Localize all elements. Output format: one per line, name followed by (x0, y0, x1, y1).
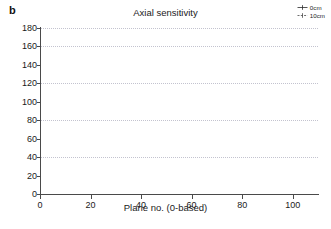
y-tick-140 (37, 65, 41, 66)
gridline-y-80 (40, 120, 318, 121)
x-tick-label-100: 100 (285, 200, 300, 210)
gridline-y-160 (40, 46, 318, 47)
x-axis: 020406080100 (39, 194, 319, 195)
x-tick-label-20: 20 (86, 200, 96, 210)
chart-title: Axial sensitivity (0, 7, 331, 18)
y-tick-120 (37, 83, 41, 84)
plot-area (40, 28, 318, 194)
x-tick-80 (242, 195, 243, 199)
x-tick-40 (141, 195, 142, 199)
legend-item-0cm[interactable]: 0cm (297, 4, 325, 11)
y-tick-label-0: 0 (32, 189, 37, 199)
y-tick-label-40: 40 (27, 152, 37, 162)
x-tick-60 (192, 195, 193, 199)
y-tick-180 (37, 28, 41, 29)
y-axis: 020406080100120140160180 (40, 27, 41, 195)
gridline-y-180 (40, 28, 318, 29)
legend-item-10cm[interactable]: 10cm (297, 12, 325, 19)
y-tick-60 (37, 139, 41, 140)
x-tick-label-0: 0 (37, 200, 42, 210)
x-tick-label-60: 60 (187, 200, 197, 210)
x-tick-label-80: 80 (237, 200, 247, 210)
y-tick-80 (37, 120, 41, 121)
y-tick-160 (37, 46, 41, 47)
plot-background (40, 28, 318, 194)
y-tick-20 (37, 176, 41, 177)
y-tick-label-100: 100 (22, 97, 37, 107)
x-tick-100 (293, 195, 294, 199)
y-tick-label-80: 80 (27, 115, 37, 125)
y-tick-label-60: 60 (27, 134, 37, 144)
figure-panel: b Axial sensitivity Countrate/Activity [… (0, 0, 331, 229)
y-tick-100 (37, 102, 41, 103)
y-tick-label-160: 160 (22, 41, 37, 51)
y-tick-40 (37, 157, 41, 158)
x-axis-label: Plane no. (0-based) (0, 202, 331, 213)
legend: 0cm10cm (295, 3, 327, 20)
x-tick-20 (91, 195, 92, 199)
x-tick-0 (40, 195, 41, 199)
y-tick-label-180: 180 (22, 23, 37, 33)
y-tick-label-20: 20 (27, 171, 37, 181)
legend-marker-icon (297, 4, 308, 11)
x-tick-label-40: 40 (136, 200, 146, 210)
y-tick-label-140: 140 (22, 60, 37, 70)
legend-label: 10cm (310, 12, 325, 19)
legend-label: 0cm (310, 4, 322, 11)
y-tick-label-120: 120 (22, 78, 37, 88)
gridline-y-120 (40, 83, 318, 84)
gridline-y-40 (40, 157, 318, 158)
legend-marker-icon (297, 12, 308, 19)
